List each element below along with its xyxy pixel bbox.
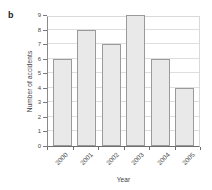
x-tick-mark: [98, 147, 99, 150]
bar-series: [48, 17, 199, 146]
bar-2005[interactable]: [175, 88, 194, 146]
x-tick-mark: [47, 147, 48, 150]
bar-chart-figure: b Number of accidents 0123456789 2000200…: [0, 0, 212, 190]
y-tick-label: 8: [38, 27, 41, 34]
bar-slot: [148, 17, 173, 146]
bar-slot: [99, 17, 124, 146]
x-tick-label-2003: 2003: [123, 151, 146, 174]
x-tick-mark: [149, 147, 150, 150]
bar-2003[interactable]: [126, 15, 145, 146]
x-tick-label-2000: 2000: [47, 151, 70, 174]
y-tick-label: 7: [38, 41, 41, 48]
y-tick-label: 4: [38, 85, 41, 92]
y-tick-label: 5: [38, 70, 41, 77]
x-tick-label-2002: 2002: [98, 151, 121, 174]
y-axis-ticks: 0123456789: [0, 0, 47, 148]
x-tick-mark: [200, 147, 201, 150]
y-tick-label: 2: [38, 114, 41, 121]
x-tick-mark: [124, 147, 125, 150]
x-tick-label-2005: 2005: [174, 151, 197, 174]
x-tick-mark: [73, 147, 74, 150]
y-tick-label: 1: [38, 128, 41, 135]
bar-slot: [50, 17, 75, 146]
y-tick-label: 6: [38, 56, 41, 63]
x-tick-label-2004: 2004: [149, 151, 172, 174]
bar-2004[interactable]: [151, 59, 170, 146]
x-tick-mark: [175, 147, 176, 150]
bar-slot: [173, 17, 198, 146]
y-tick-label: 3: [38, 99, 41, 106]
bar-2001[interactable]: [77, 30, 96, 146]
x-axis-title: Year: [47, 176, 200, 183]
bar-slot: [124, 17, 149, 146]
x-axis-tick-labels: 200020012002200320042005: [47, 151, 200, 177]
y-tick-label: 9: [38, 12, 41, 19]
y-tick-label: 0: [38, 143, 41, 150]
bar-2002[interactable]: [102, 44, 121, 146]
bar-2000[interactable]: [53, 59, 72, 146]
plot-area: [47, 16, 200, 147]
x-tick-label-2001: 2001: [72, 151, 95, 174]
bar-slot: [75, 17, 100, 146]
